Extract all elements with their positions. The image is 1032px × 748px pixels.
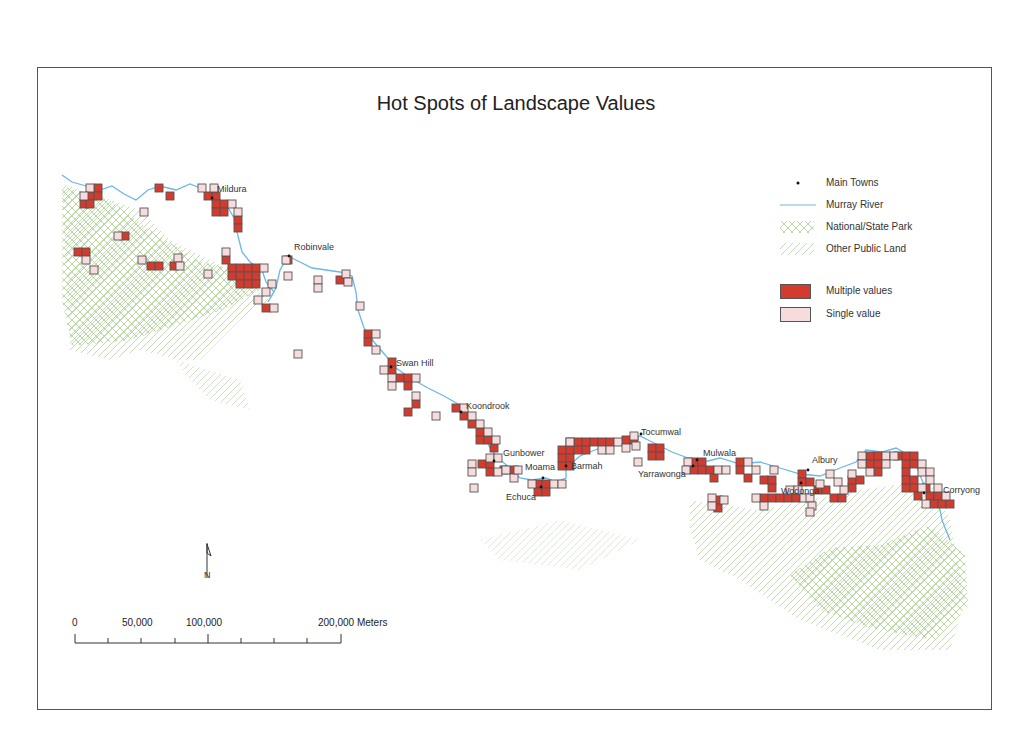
hotspot-cell xyxy=(262,304,270,312)
hotspot-cell xyxy=(736,458,744,466)
hotspot-cell xyxy=(598,438,606,446)
town-dot-icon xyxy=(390,366,393,369)
scale-label-0: 0 xyxy=(72,617,78,628)
hotspot-cell xyxy=(86,184,94,192)
hotspot-cell xyxy=(760,476,768,484)
hotspot-cell xyxy=(412,392,420,400)
hotspot-cell xyxy=(830,494,838,502)
town-dot-icon xyxy=(460,411,463,414)
hotspot-cell xyxy=(874,468,882,476)
hotspot-cell xyxy=(760,494,768,502)
hotspot-cell xyxy=(147,262,155,270)
hotspot-cell xyxy=(710,474,718,482)
hotspot-cell xyxy=(80,192,88,200)
hotspot-cell xyxy=(364,338,372,346)
hotspot-cell xyxy=(910,460,918,468)
hotspot-cell xyxy=(468,420,476,428)
hotspot-cell xyxy=(470,484,478,492)
north-arrow-icon: N xyxy=(204,543,211,580)
hotspot-cell xyxy=(690,466,698,474)
hotspot-cell xyxy=(848,470,856,478)
hotspot-cell xyxy=(155,184,163,192)
hotspot-cell xyxy=(270,304,278,312)
hotspot-cell xyxy=(86,200,94,208)
hotspot-cell xyxy=(468,460,476,468)
hotspot-cell xyxy=(858,452,866,460)
hotspot-cell xyxy=(630,432,638,440)
hotspot-cell xyxy=(910,484,918,492)
hotspot-cell xyxy=(606,446,614,454)
hotspot-cell xyxy=(736,466,744,474)
town-dot-icon xyxy=(692,465,695,468)
scale-label-200000: 200,000 Meters xyxy=(318,617,388,628)
hotspot-cell xyxy=(234,224,242,232)
town-label: Corryong xyxy=(943,485,980,495)
hotspot-cell xyxy=(490,444,498,452)
hotspot-cell xyxy=(412,374,420,382)
hotspot-cell xyxy=(918,484,926,492)
hotspot-cell xyxy=(94,192,102,200)
hotspot-cell xyxy=(874,460,882,468)
hotspot-cell xyxy=(946,500,954,508)
hotspot-cell xyxy=(372,330,380,338)
town-label: Moama xyxy=(525,462,555,472)
hotspot-cell xyxy=(364,330,372,338)
hotspot-cell xyxy=(558,446,566,454)
hotspot-cell xyxy=(698,458,706,466)
hotspot-cell xyxy=(890,452,898,460)
hotspot-cell xyxy=(244,280,252,288)
town-label: Mulwala xyxy=(703,448,736,458)
hotspot-cell xyxy=(484,428,492,436)
hotspot-cell xyxy=(94,184,102,192)
hotspot-cell xyxy=(566,446,574,454)
hotspot-cell xyxy=(926,476,934,484)
hotspot-cell xyxy=(744,458,752,466)
hotspot-cell xyxy=(834,478,842,486)
hatch-icon xyxy=(780,242,816,256)
hotspot-cell xyxy=(228,200,236,208)
hotspot-cell xyxy=(514,466,522,474)
hotspot-cell xyxy=(114,232,122,240)
hotspot-cell xyxy=(412,400,420,408)
hotspot-cell xyxy=(228,272,236,280)
town-dot-icon xyxy=(540,486,543,489)
hotspot-cell xyxy=(222,248,230,256)
hotspot-cell xyxy=(558,480,566,488)
svg-text:N: N xyxy=(204,570,211,580)
scale-label-100000: 100,000 xyxy=(186,617,222,628)
hotspot-cell xyxy=(614,438,622,446)
hotspot-cell xyxy=(528,480,536,488)
hotspot-cell xyxy=(752,466,760,474)
hotspot-cell xyxy=(198,184,206,192)
hotspot-cell xyxy=(468,468,476,476)
hotspot-cell xyxy=(558,454,566,462)
hotspot-cell xyxy=(622,436,630,444)
hotspot-cell xyxy=(468,412,476,420)
town-label: Tocumwal xyxy=(641,427,681,437)
hotspot-cell xyxy=(720,496,728,504)
hotspot-cell xyxy=(356,302,364,310)
hotspot-cell xyxy=(902,468,910,476)
hotspot-cell xyxy=(866,452,874,460)
hotspot-cell xyxy=(866,468,874,476)
hotspot-cell xyxy=(866,460,874,468)
hotspot-cell xyxy=(840,486,848,494)
hotspot-cell xyxy=(314,276,322,284)
town-dot-icon xyxy=(288,255,291,258)
hotspot-cell xyxy=(918,468,926,476)
hotspot-cell xyxy=(926,468,934,476)
town-label: Gunbower xyxy=(503,448,545,458)
hotspot-cell xyxy=(236,264,244,272)
hotspot-cell xyxy=(706,466,714,474)
hotspot-cell xyxy=(634,458,642,466)
hotspot-cell xyxy=(934,492,942,500)
hotspot-cell xyxy=(254,296,262,304)
town-dot-icon xyxy=(807,469,810,472)
town-label: Swan Hill xyxy=(396,358,434,368)
hotspot-cell xyxy=(798,478,806,486)
hotspot-cell xyxy=(234,208,242,216)
hotspot-cell xyxy=(372,346,380,354)
hotspot-cell xyxy=(806,478,814,486)
hotspot-cell xyxy=(82,248,90,256)
hotspot-cell xyxy=(494,468,502,476)
